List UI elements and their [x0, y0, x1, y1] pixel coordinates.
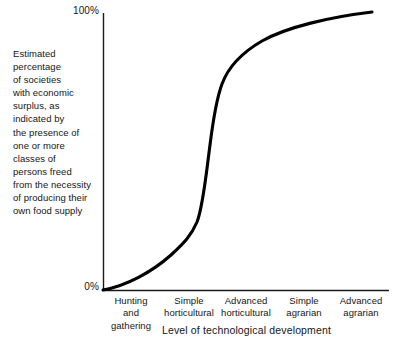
x-tick-line: Advanced [320, 295, 402, 307]
chart-figure: Estimated percentage of societies with e… [0, 0, 407, 344]
x-axis-title: Level of technological development [103, 324, 390, 336]
x-tick-advanced-agrarian: Advanced agrarian [320, 295, 402, 320]
plot-area [0, 0, 407, 344]
data-curve-economic-surplus [103, 12, 372, 290]
x-tick-line: agrarian [320, 307, 402, 319]
